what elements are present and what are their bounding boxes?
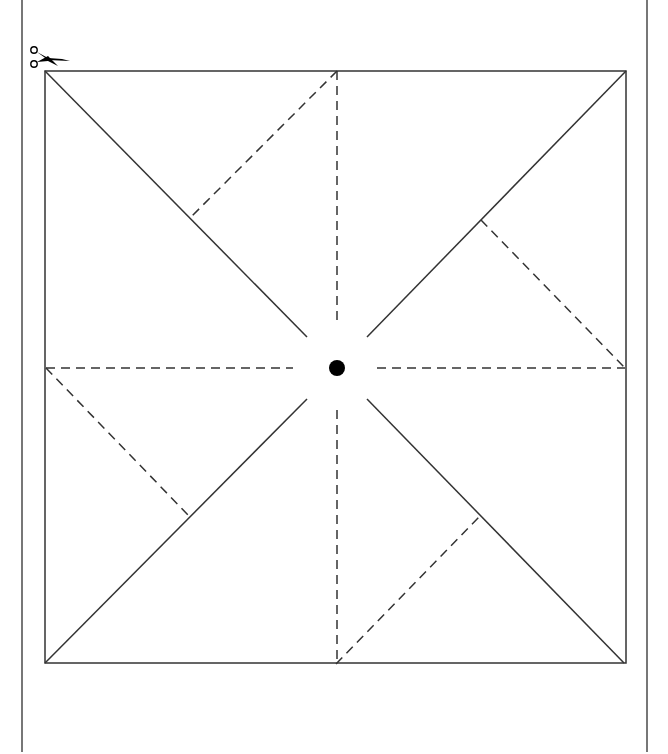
pinwheel-template-diagram [0, 0, 668, 754]
solid-cut-line [367, 71, 626, 337]
dashed-fold-line [336, 516, 480, 664]
dashed-fold-line [481, 220, 625, 368]
dashed-fold-line [46, 368, 189, 516]
dashed-fold-line [192, 71, 337, 216]
solid-cut-line [45, 71, 307, 337]
scissors-icon [31, 47, 70, 67]
page-border [22, 0, 647, 752]
solid-cut-line [367, 399, 624, 663]
center-pin-dot [329, 360, 345, 376]
solid-cut-line [45, 399, 307, 663]
